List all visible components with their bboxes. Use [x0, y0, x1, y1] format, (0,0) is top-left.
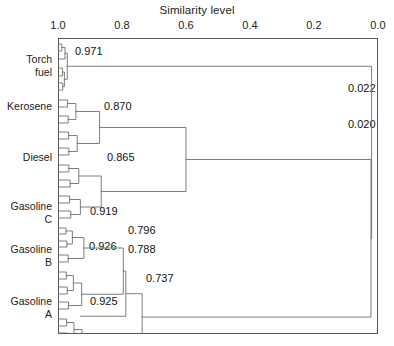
link-kero-4: [58, 132, 69, 139]
link-gasa-3: [67, 323, 74, 335]
dendrogram-plot: [58, 38, 378, 334]
link-kero-5: [58, 148, 69, 155]
group-label-gasoline-c: Gasoline C: [0, 200, 52, 225]
axis-tick-0-2: 0.2: [306, 19, 321, 31]
axis-tick-0-0: 0.0: [370, 19, 385, 31]
link-root-0020: [67, 66, 371, 238]
axis-tick-0-4: 0.4: [242, 19, 257, 31]
group-label-diesel: Diesel: [0, 151, 52, 164]
group-label-kerosene: Kerosene: [0, 100, 52, 113]
link-kero-diesel: [100, 128, 186, 192]
axis-tick-1-0: 1.0: [50, 19, 65, 31]
link-diesel-1: [58, 165, 69, 172]
link-kero-root: [76, 112, 100, 144]
plot-frame: [59, 39, 378, 334]
link-kero-3: [68, 104, 76, 120]
link-kero-1: [58, 100, 68, 107]
dendrogram-tree: [58, 44, 372, 334]
link-gasa-1: [58, 319, 67, 326]
dendrogram-figure: Similarity level 1.00.80.60.40.20.0 Torc…: [0, 0, 394, 346]
link-gas-cb-upper: [82, 248, 124, 294]
link-gasb-2: [58, 287, 67, 294]
link-gasc-1: [58, 228, 66, 234]
link-gasb-1: [58, 272, 66, 279]
link-diesel-2: [58, 180, 70, 187]
link-gasc-root: [68, 238, 84, 259]
group-label-torch-fuel: Torch fuel: [0, 53, 52, 78]
link-upper-0022: [142, 160, 371, 318]
link-gas-cb: [80, 271, 125, 316]
group-label-gasoline-a: Gasoline A: [0, 295, 52, 320]
link-gasc-2: [58, 241, 67, 247]
link-gasb-4: [58, 302, 69, 309]
link-diesel-root: [79, 176, 101, 207]
group-label-gasoline-b: Gasoline B: [0, 243, 52, 268]
link-diesel-4: [58, 196, 70, 203]
axis-title: Similarity level: [0, 4, 394, 16]
axis-tick-0-8: 0.8: [114, 19, 129, 31]
axis-tick-0-6: 0.6: [178, 19, 193, 31]
link-diesel-5: [58, 211, 71, 218]
link-gasb-root: [69, 283, 82, 306]
link-kero-2: [58, 116, 68, 123]
link-gas-root: [82, 294, 142, 334]
link-kero-6: [69, 136, 78, 152]
link-gasc-4: [58, 255, 68, 262]
